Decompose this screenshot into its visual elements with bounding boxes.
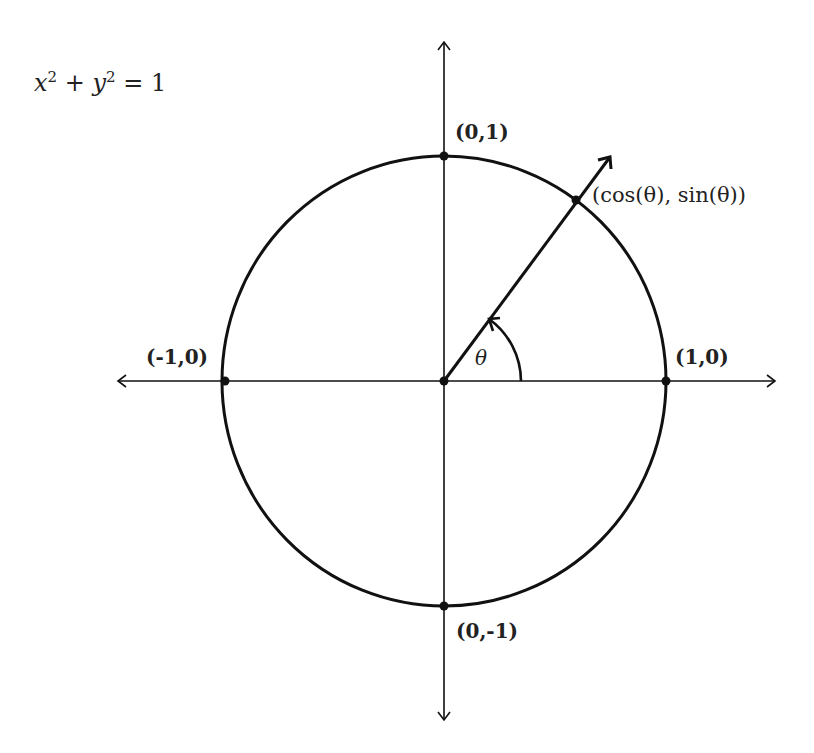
point-left <box>221 377 230 386</box>
eq-exp-y: 2 <box>106 68 116 86</box>
radius-vector <box>444 157 611 381</box>
label-left-point: (-1,0) <box>146 345 208 369</box>
point-bottom <box>440 602 449 611</box>
eq-equals: = 1 <box>116 69 167 97</box>
point-on-circle <box>572 196 581 205</box>
label-theta: θ <box>475 346 487 370</box>
point-right <box>662 377 671 386</box>
eq-plus: + <box>57 69 92 97</box>
unit-circle-diagram <box>0 0 814 753</box>
point-origin <box>440 377 449 386</box>
eq-x: x <box>34 69 48 97</box>
circle-equation: x2 + y2 = 1 <box>34 68 166 97</box>
eq-exp-x: 2 <box>48 68 58 86</box>
angle-arc <box>489 318 521 381</box>
eq-y: y <box>92 69 106 97</box>
label-bottom-point: (0,-1) <box>456 619 518 643</box>
label-circle-point: (cos(θ), sin(θ)) <box>592 183 746 207</box>
point-top <box>440 152 449 161</box>
label-right-point: (1,0) <box>675 345 729 369</box>
label-top-point: (0,1) <box>455 120 509 144</box>
